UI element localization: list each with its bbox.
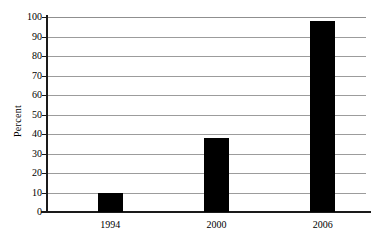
y-tick-label: 90 <box>16 32 42 42</box>
y-tick-label: 60 <box>16 90 42 100</box>
y-tick-label: 0 <box>16 207 42 217</box>
y-tick-label: 100 <box>16 12 42 22</box>
bar <box>98 193 123 212</box>
x-tick-label: 2000 <box>187 219 247 230</box>
y-tick-label: 50 <box>16 110 42 120</box>
y-tick-label: 70 <box>16 71 42 81</box>
y-tick-label: 10 <box>16 188 42 198</box>
x-tick-label: 1994 <box>80 219 140 230</box>
y-tick-label: 40 <box>16 129 42 139</box>
y-tick-label: 20 <box>16 168 42 178</box>
y-tick-label: 30 <box>16 149 42 159</box>
x-tick-label: 2006 <box>293 219 353 230</box>
bar <box>204 138 229 212</box>
bar <box>310 21 335 212</box>
y-tick-label: 80 <box>16 51 42 61</box>
bars-layer <box>48 17 366 212</box>
y-axis-tick-labels: 100 90 80 70 60 50 40 30 20 10 0 <box>10 0 42 242</box>
bar-chart: Percent 100 90 80 70 60 50 40 30 20 10 0… <box>0 0 383 242</box>
